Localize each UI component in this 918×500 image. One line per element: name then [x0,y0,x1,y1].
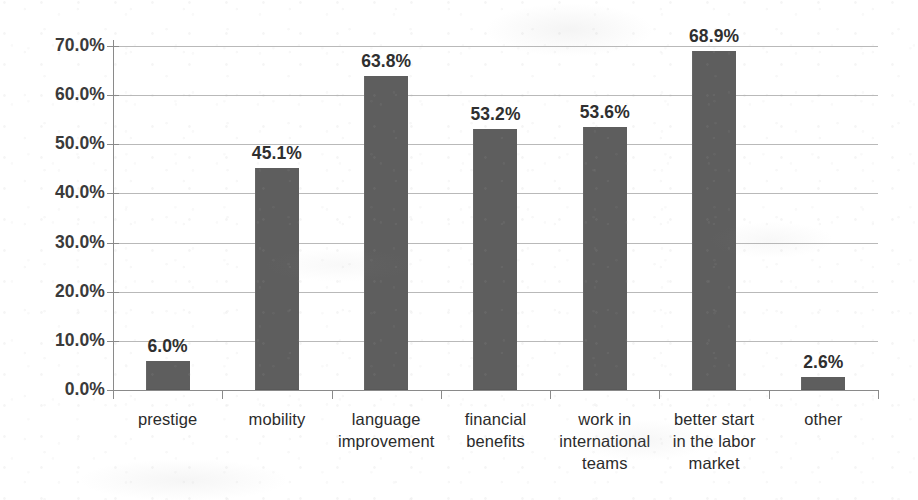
bar[interactable] [146,361,190,390]
y-tick-mark [107,341,119,342]
bar-value-label: 2.6% [803,352,843,373]
bar-slot: 6.0% [113,46,222,390]
bar[interactable] [255,168,299,390]
y-tick-label: 30.0% [8,232,105,253]
bar-slot: 63.8% [332,46,441,390]
x-category-label: better startin the labormarket [659,408,768,474]
x-category-label-line: financial [441,408,550,430]
bar[interactable] [801,377,845,390]
y-axis-line [113,40,114,396]
bar-slot: 45.1% [222,46,331,390]
x-category-label-line: international [550,430,659,452]
y-tick-label: 20.0% [8,281,105,302]
x-category-label-line: mobility [222,408,331,430]
x-category-label: mobility [222,408,331,430]
bar[interactable] [583,127,627,390]
x-category-label-line: language [332,408,441,430]
x-category-label: other [769,408,878,430]
y-tick-mark [107,46,119,47]
y-tick-label: 70.0% [8,35,105,56]
y-tick-label: 50.0% [8,133,105,154]
x-category-label: languageimprovement [332,408,441,452]
bar-slot: 68.9% [659,46,768,390]
x-tick-mark [550,390,551,399]
x-category-label: prestige [113,408,222,430]
y-tick-label: 40.0% [8,182,105,203]
x-category-label-line: improvement [332,430,441,452]
bar-slot: 2.6% [769,46,878,390]
x-tick-mark [769,390,770,399]
bar-chart: 6.0%45.1%63.8%53.2%53.6%68.9%2.6% 0.0%10… [0,0,918,500]
x-category-label-line: teams [550,452,659,474]
plot-area: 6.0%45.1%63.8%53.2%53.6%68.9%2.6% [113,46,878,390]
y-tick-mark [107,193,119,194]
y-tick-mark [107,292,119,293]
y-tick-label: 10.0% [8,330,105,351]
x-tick-mark [113,390,114,399]
bar[interactable] [473,129,517,390]
x-category-label-line: other [769,408,878,430]
x-axis-line [113,390,879,391]
x-tick-mark [332,390,333,399]
bar-value-label: 68.9% [689,26,739,47]
bar[interactable] [692,51,736,390]
x-category-label-line: market [659,452,768,474]
bar-value-label: 53.2% [470,104,520,125]
y-tick-mark [107,144,119,145]
bar-value-label: 53.6% [580,102,630,123]
y-tick-label: 60.0% [8,84,105,105]
y-tick-mark [107,95,119,96]
bar-value-label: 45.1% [252,143,302,164]
x-tick-mark [441,390,442,399]
x-category-label-line: prestige [113,408,222,430]
x-tick-mark [222,390,223,399]
x-tick-mark [659,390,660,399]
x-category-label-line: in the labor [659,430,768,452]
x-category-label-line: work in [550,408,659,430]
x-category-label-line: better start [659,408,768,430]
bar[interactable] [364,76,408,390]
y-tick-mark [107,243,119,244]
bar-slot: 53.2% [441,46,550,390]
bar-slot: 53.6% [550,46,659,390]
x-category-label: financialbenefits [441,408,550,452]
y-tick-label: 0.0% [8,379,105,400]
bar-value-label: 6.0% [147,336,187,357]
bar-value-label: 63.8% [361,51,411,72]
x-category-label-line: benefits [441,430,550,452]
x-category-label: work ininternationalteams [550,408,659,474]
x-tick-mark [878,390,879,399]
